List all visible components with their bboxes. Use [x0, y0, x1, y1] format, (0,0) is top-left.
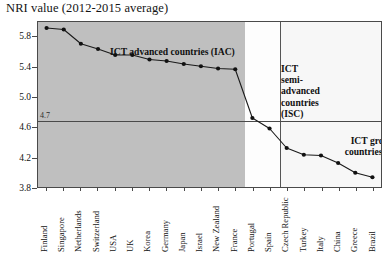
y-axis-labels: 5.85.45.04.64.23.8: [0, 21, 34, 188]
x-tick-mark: [322, 188, 323, 191]
x-tick-label: Turkey: [299, 227, 308, 252]
x-tick-label: Spain: [264, 232, 273, 252]
x-tick-label: New Zealand: [212, 206, 221, 252]
x-tick-label: Germany: [161, 220, 170, 252]
x-tick-mark: [97, 188, 98, 191]
chart-title: NRI value (2012-2015 average): [6, 1, 168, 16]
y-tick-mark: [32, 97, 37, 98]
x-tick-mark: [166, 188, 167, 191]
x-tick-label: Netherlands: [74, 210, 83, 252]
x-tick-label: UK: [126, 240, 135, 252]
x-tick-label: Brazil: [368, 231, 377, 252]
x-tick-mark: [373, 188, 374, 191]
x-tick-label: Korea: [143, 231, 152, 252]
x-tick-mark: [46, 188, 47, 191]
x-tick-label: Israel: [195, 233, 204, 252]
data-point: [302, 153, 306, 157]
data-point: [267, 126, 271, 130]
plot-area: 4.7 ICT advanced countries (IAC) ICT sem…: [37, 21, 382, 188]
x-tick-mark: [132, 188, 133, 191]
x-tick-mark: [304, 188, 305, 191]
data-point: [370, 175, 374, 179]
x-tick-mark: [184, 188, 185, 191]
x-tick-label: France: [230, 229, 239, 252]
y-tick-label: 4.2: [19, 153, 31, 163]
y-tick-label: 5.4: [19, 62, 31, 72]
x-tick-mark: [356, 188, 357, 191]
x-tick-label: Greece: [350, 228, 359, 252]
data-point: [353, 171, 357, 175]
data-point: [44, 26, 48, 30]
x-tick-label: Italy: [316, 236, 325, 252]
x-tick-label: Switzerland: [92, 211, 101, 252]
data-point: [319, 153, 323, 157]
annotation-ict-growing: ICT growing countries (IGC): [331, 135, 382, 157]
y-tick-label: 4.6: [19, 122, 31, 132]
x-tick-mark: [115, 188, 116, 191]
x-tick-mark: [253, 188, 254, 191]
x-tick-label: Czech Republic: [281, 197, 290, 252]
x-tick-mark: [149, 188, 150, 191]
data-point: [199, 64, 203, 68]
x-tick-mark: [339, 188, 340, 191]
data-point: [233, 67, 237, 71]
y-tick-mark: [32, 67, 37, 68]
x-tick-label: Finland: [40, 226, 49, 252]
data-point: [336, 161, 340, 165]
y-tick-mark: [32, 188, 37, 189]
x-tick-mark: [80, 188, 81, 191]
y-tick-label: 5.0: [19, 92, 31, 102]
y-tick-label: 3.8: [19, 183, 31, 193]
data-point: [79, 42, 83, 46]
x-tick-mark: [63, 188, 64, 191]
x-tick-label: USA: [109, 235, 118, 252]
x-tick-mark: [201, 188, 202, 191]
x-tick-mark: [235, 188, 236, 191]
y-tick-mark: [32, 127, 37, 128]
x-axis-labels: FinlandSingaporeNetherlandsSwitzerlandUS…: [37, 190, 382, 258]
x-tick-mark: [218, 188, 219, 191]
x-tick-label: Japan: [178, 232, 187, 252]
data-point: [216, 66, 220, 70]
data-point: [147, 57, 151, 61]
x-tick-mark: [270, 188, 271, 191]
data-point: [285, 146, 289, 150]
x-tick-label: Portugal: [247, 223, 256, 252]
chart-root: NRI value (2012-2015 average) 5.85.45.04…: [0, 0, 384, 258]
y-tick-mark: [32, 158, 37, 159]
data-point: [250, 116, 254, 120]
annotation-ict-semi-advanced: ICT semi- advanced countries (ISC): [281, 63, 333, 119]
data-point: [96, 47, 100, 51]
y-tick-label: 5.8: [19, 31, 31, 41]
data-point: [165, 59, 169, 63]
x-tick-label: Singapore: [57, 217, 66, 252]
x-tick-mark: [287, 188, 288, 191]
annotation-ict-advanced: ICT advanced countries (IAC): [110, 46, 235, 57]
data-point: [182, 62, 186, 66]
x-tick-label: China: [333, 231, 342, 252]
y-tick-mark: [32, 36, 37, 37]
data-point: [62, 27, 66, 31]
